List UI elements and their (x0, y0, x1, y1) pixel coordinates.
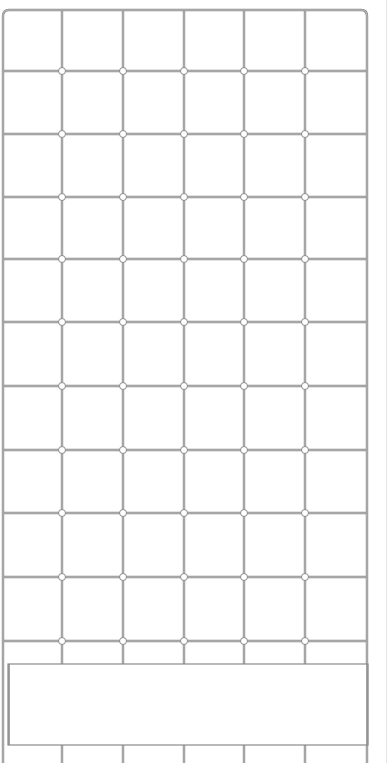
weld-node (181, 574, 188, 581)
weld-node (241, 447, 248, 454)
weld-node (302, 510, 309, 517)
weld-node (302, 447, 309, 454)
weld-node (241, 383, 248, 390)
weld-node (302, 638, 309, 645)
weld-node (181, 256, 188, 263)
weld-node (120, 383, 127, 390)
weld-node (181, 319, 188, 326)
weld-node (241, 510, 248, 517)
weld-node (241, 256, 248, 263)
weld-node (241, 131, 248, 138)
weld-node (181, 447, 188, 454)
weld-node (302, 383, 309, 390)
weld-node (302, 574, 309, 581)
weld-node (59, 574, 66, 581)
weld-node (59, 447, 66, 454)
weld-node (120, 194, 127, 201)
weld-node (120, 131, 127, 138)
weld-node (181, 510, 188, 517)
weld-node (241, 574, 248, 581)
weld-node (181, 194, 188, 201)
weld-node (120, 319, 127, 326)
weld-node (241, 194, 248, 201)
weld-node (181, 131, 188, 138)
weld-node (120, 447, 127, 454)
weld-node (241, 319, 248, 326)
weld-node (241, 638, 248, 645)
weld-node (59, 68, 66, 75)
weld-node (302, 256, 309, 263)
gridwall-panel (0, 0, 390, 763)
weld-node (59, 383, 66, 390)
weld-node (59, 319, 66, 326)
weld-node (181, 68, 188, 75)
weld-node (241, 68, 248, 75)
weld-node (59, 194, 66, 201)
blank-sign (8, 664, 368, 745)
weld-node (120, 574, 127, 581)
weld-node (302, 131, 309, 138)
weld-node (302, 194, 309, 201)
weld-node (302, 68, 309, 75)
weld-node (181, 638, 188, 645)
weld-node (120, 638, 127, 645)
weld-node (59, 256, 66, 263)
weld-node (59, 510, 66, 517)
weld-node (120, 510, 127, 517)
weld-node (302, 319, 309, 326)
weld-node (59, 131, 66, 138)
weld-node (120, 256, 127, 263)
weld-node (59, 638, 66, 645)
weld-node (181, 383, 188, 390)
weld-node (120, 68, 127, 75)
